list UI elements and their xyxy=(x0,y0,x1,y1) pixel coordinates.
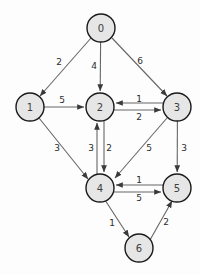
edge-0-1 xyxy=(40,38,91,96)
node-5-label: 5 xyxy=(174,183,180,194)
edge-weight-0-3: 6 xyxy=(137,56,143,66)
node-2-label: 2 xyxy=(97,102,103,113)
edge-weight-3-4: 5 xyxy=(146,143,152,153)
edge-weight-2-4: 2 xyxy=(106,143,112,153)
node-0-label: 0 xyxy=(98,23,104,34)
edge-weight-1-2: 5 xyxy=(59,95,65,105)
edge-weight-3-5: 3 xyxy=(181,143,187,153)
edge-weight-6-5: 2 xyxy=(163,217,169,227)
edge-weight-4-6: 1 xyxy=(109,218,115,228)
node-6-label: 6 xyxy=(136,243,142,254)
node-1[interactable]: 1 xyxy=(16,93,44,121)
node-0[interactable]: 0 xyxy=(87,14,115,42)
edge-1-4 xyxy=(39,118,88,179)
edges-group xyxy=(39,38,177,240)
edge-0-3 xyxy=(112,38,167,96)
edge-weight-0-2: 4 xyxy=(91,61,97,71)
node-3[interactable]: 3 xyxy=(163,93,191,121)
edge-weight-labels-group: 2 4 6 5 1 2 3 3 2 5 3 1 5 1 2 xyxy=(54,56,187,228)
edge-weight-2-3: 2 xyxy=(136,112,142,122)
edge-weight-0-1: 2 xyxy=(56,57,62,67)
node-4-label: 4 xyxy=(97,183,103,194)
node-1-label: 1 xyxy=(27,102,33,113)
node-3-label: 3 xyxy=(174,102,180,113)
node-2[interactable]: 2 xyxy=(86,93,114,121)
edge-weight-4-2: 3 xyxy=(88,143,94,153)
graph-diagram: 0 1 2 3 4 5 6 xyxy=(0,0,200,275)
edge-weight-1-4: 3 xyxy=(54,143,60,153)
node-6[interactable]: 6 xyxy=(125,234,153,262)
edge-3-4 xyxy=(115,118,167,178)
node-5[interactable]: 5 xyxy=(163,174,191,202)
edge-weight-3-2: 1 xyxy=(136,94,142,104)
graph-canvas: 0 1 2 3 4 5 6 xyxy=(0,0,200,275)
node-4[interactable]: 4 xyxy=(86,174,114,202)
edge-weight-5-4: 1 xyxy=(136,175,142,185)
edge-weight-4-5: 5 xyxy=(136,193,142,203)
